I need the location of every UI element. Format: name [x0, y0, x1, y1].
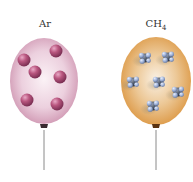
methane-balloon [120, 37, 191, 170]
argon-balloon-body [10, 38, 78, 124]
argon-balloon-knot [40, 124, 48, 128]
balloons-diagram [0, 0, 193, 182]
methane-balloon-knot [152, 124, 160, 128]
argon-balloon [10, 38, 78, 170]
